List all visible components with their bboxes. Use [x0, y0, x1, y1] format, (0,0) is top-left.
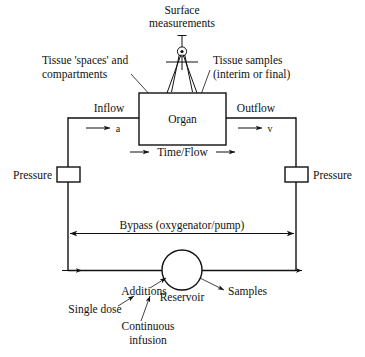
outflow-label: Outflow	[237, 102, 276, 114]
surface-measurements-line2: measurements	[149, 17, 215, 29]
pressure-gauge-left: Pressure	[13, 167, 80, 182]
single-dose-annotation: Single dose	[68, 296, 134, 316]
surface-measurements-label: Surface measurements	[149, 4, 215, 29]
diagram-root: Surface measurements Tissue 'spaces' and	[0, 0, 365, 357]
samples-annotation: Samples	[200, 278, 267, 298]
dividers-compass-icon	[166, 35, 198, 93]
single-dose-label: Single dose	[68, 303, 121, 316]
additions-annotation: Additions	[121, 278, 167, 297]
tissue-spaces-line1: Tissue 'spaces' and	[42, 54, 128, 67]
tissue-spaces-line2: compartments	[42, 68, 108, 81]
venous-flow-arrow: v	[238, 123, 273, 134]
pressure-gauge-right: Pressure	[285, 167, 352, 182]
tissue-samples-line2: (interim or final)	[213, 68, 290, 81]
continuous-infusion-line1: Continuous	[121, 320, 175, 332]
continuous-infusion-line2: infusion	[129, 334, 167, 346]
arterial-label: a	[116, 123, 121, 134]
time-flow-label: Time/Flow	[157, 146, 208, 158]
bypass-line: Bypass (oxygenator/pump)	[70, 219, 294, 234]
perfusion-circuit-diagram: Surface measurements Tissue 'spaces' and	[0, 0, 365, 357]
pressure-gauge-icon	[57, 167, 80, 182]
organ-label: Organ	[168, 113, 197, 126]
bypass-label: Bypass (oxygenator/pump)	[120, 219, 245, 232]
samples-label: Samples	[228, 285, 267, 298]
pressure-gauge-icon	[285, 167, 308, 182]
time-flow-indicator: Time/Flow	[130, 146, 235, 158]
tissue-samples-line1: Tissue samples	[213, 54, 283, 67]
inflow-label: Inflow	[94, 102, 125, 114]
pressure-right-label: Pressure	[313, 169, 352, 181]
surface-measurements-line1: Surface	[164, 4, 199, 16]
additions-label: Additions	[121, 285, 167, 297]
reservoir-circle-icon	[162, 250, 202, 290]
pressure-left-label: Pressure	[13, 169, 52, 181]
venous-label: v	[268, 123, 273, 134]
continuous-infusion-annotation: Continuous infusion	[121, 296, 175, 346]
arterial-flow-arrow: a	[86, 123, 121, 134]
